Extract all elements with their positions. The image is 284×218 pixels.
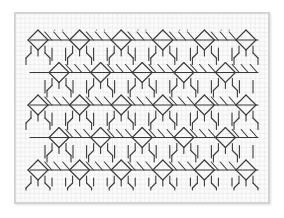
diagonal-stitch	[109, 118, 114, 123]
chevron-arm	[128, 97, 135, 105]
chevron-arm	[137, 97, 144, 105]
chevron-arm	[179, 32, 186, 40]
diamond-edge	[153, 30, 163, 40]
diamond-edge	[80, 30, 90, 40]
diamond-edge	[28, 105, 38, 115]
diamond-edge	[91, 138, 101, 148]
chevron-arm	[200, 65, 207, 73]
chevron-arm	[211, 32, 218, 40]
chevron-arm	[137, 32, 144, 40]
diamond-edge	[236, 105, 246, 115]
chevron-arm	[149, 65, 156, 73]
diamond-edge	[142, 138, 152, 148]
chevron-arm	[66, 65, 73, 73]
graph-grid	[16, 14, 268, 202]
diamond-edge	[153, 105, 163, 115]
chevron-arm	[191, 65, 198, 73]
chevron-arm	[128, 32, 135, 40]
diagonal-stitch	[47, 86, 52, 91]
diagonal-stitch	[108, 86, 113, 91]
diamond-edge	[194, 30, 204, 40]
diagonal-stitch	[87, 118, 92, 123]
chevron-arm	[211, 97, 218, 105]
chevron-arm	[170, 32, 177, 40]
chevron-arm	[63, 97, 70, 105]
chevron-arm	[250, 65, 257, 73]
diamond-edge	[28, 95, 38, 105]
diagonal-stitch	[253, 118, 258, 123]
diagonal-stitch	[128, 118, 133, 123]
diamond-edge	[38, 105, 48, 115]
chevron-arm	[209, 65, 216, 73]
diamond-edge	[101, 138, 111, 148]
diagonal-stitch	[45, 118, 50, 123]
diamond-edge	[236, 30, 246, 40]
diamond-edge	[59, 138, 69, 148]
chevron-arm	[241, 65, 248, 73]
chevron-arm	[188, 32, 195, 40]
chevron-arm	[188, 97, 195, 105]
diagonal-stitch	[149, 86, 154, 91]
chevron-arm	[232, 65, 239, 73]
diagonal-stitch	[87, 183, 92, 188]
chevron-arm	[116, 65, 123, 73]
diagonal-stitch	[149, 151, 154, 156]
diagonal-stitch	[191, 86, 196, 91]
diagonal-stitch	[191, 151, 196, 156]
diamond-edge	[28, 30, 38, 40]
diamond-edge	[38, 30, 48, 40]
diagonal-stitch	[109, 183, 114, 188]
diagonal-stitch	[192, 183, 197, 188]
diamond-edge	[215, 138, 225, 148]
diamond-edge	[225, 138, 235, 148]
chevron-arm	[229, 32, 236, 40]
diagonal-stitch	[253, 183, 258, 188]
diagonal-stitch	[151, 183, 156, 188]
chevron-arm	[86, 97, 93, 105]
diamond-edge	[246, 160, 256, 170]
diagonal-stitch	[26, 183, 31, 188]
chevron-arm	[86, 32, 93, 40]
diamond-edge	[246, 30, 256, 40]
diagonal-stitch	[151, 118, 156, 123]
chevron-arm	[220, 97, 227, 105]
chevron-arm	[107, 65, 114, 73]
diagonal-stitch	[234, 183, 239, 188]
diagonal-stitch	[108, 151, 113, 156]
diamond-edge	[194, 105, 204, 115]
diamond-edge	[132, 138, 142, 148]
diagonal-stitch	[234, 118, 239, 123]
diamond-edge	[174, 138, 184, 148]
diamond-edge	[80, 105, 90, 115]
diamond-edge	[28, 160, 38, 170]
diagonal-stitch	[213, 86, 218, 91]
diagonal-stitch	[47, 151, 52, 156]
diagonal-stitch	[68, 183, 73, 188]
chevron-arm	[63, 32, 70, 40]
blackwork-pattern	[0, 0, 284, 218]
diagonal-stitch	[128, 183, 133, 188]
diagonal-stitch	[45, 183, 50, 188]
diamond-edge	[246, 105, 256, 115]
diagonal-stitch	[68, 118, 73, 123]
diagonal-stitch	[192, 118, 197, 123]
chevron-arm	[170, 97, 177, 105]
diamond-edge	[184, 138, 194, 148]
diamond-edge	[246, 95, 256, 105]
chevron-arm	[158, 65, 165, 73]
chevron-arm	[229, 97, 236, 105]
chevron-arm	[220, 32, 227, 40]
chevron-arm	[179, 97, 186, 105]
diagonal-stitch	[26, 118, 31, 123]
diagonal-stitch	[213, 151, 218, 156]
